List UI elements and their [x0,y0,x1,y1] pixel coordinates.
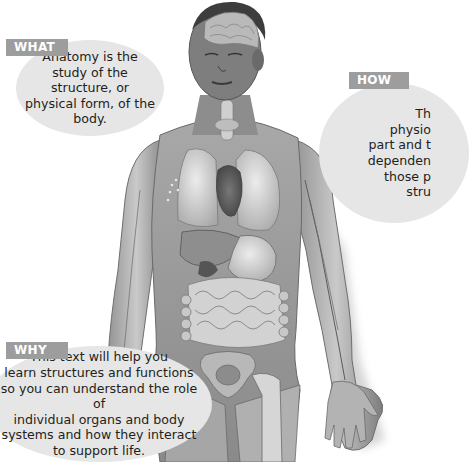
why-tag: WHY [6,342,68,359]
what-tag: WHAT [6,39,68,56]
how-line-5: those p [331,169,431,185]
why-callout-text: This text will help you learn structures… [0,349,202,458]
why-callout: This text will help you learn structures… [0,346,212,462]
why-line-2: learn structures and functions [0,365,202,381]
how-line-4: dependen [331,153,431,169]
how-callout-text: Th physio part and t dependen those p st… [331,106,431,200]
why-line-3: so you can understand the role of [0,381,202,412]
how-line-1: Th [331,106,431,122]
how-line-6: stru [331,184,431,200]
how-tag: HOW [349,72,409,89]
what-line-4: body. [24,111,156,127]
lung-left [178,149,218,227]
why-line-5: systems and how they interact [0,427,202,443]
why-line-6: to support life. [0,443,202,459]
what-callout-text: Anatomy is the study of the structure, o… [24,49,156,127]
what-line-2: study of the structure, or [24,65,156,96]
head [189,2,265,100]
why-line-4: individual organs and body [0,412,202,428]
what-line-3: physical form, of the [24,96,156,112]
how-line-3: part and t [331,137,431,153]
how-callout: Th physio part and t dependen those p st… [319,83,469,223]
intestines [181,278,289,348]
how-line-2: physio [331,122,431,138]
